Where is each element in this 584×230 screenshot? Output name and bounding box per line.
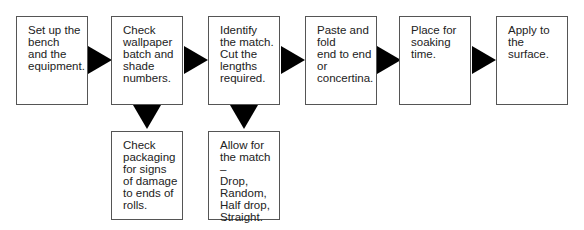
arrow-right-icon [88, 46, 112, 74]
step-identify-match: Identify the match. Cut the lengths requ… [208, 16, 280, 105]
step-paste-fold: Paste and fold end to end or concertina. [305, 16, 377, 105]
arrow-right-icon [472, 46, 496, 74]
substep-allow-match: Allow for the match – Drop, Random, Half… [208, 131, 280, 220]
arrow-down-icon [133, 105, 161, 129]
substep-check-packaging: Check packaging for signs of damage to e… [111, 131, 183, 220]
arrow-right-icon [281, 46, 305, 74]
step-apply-surface: Apply to the surface. [496, 16, 568, 105]
step-setup-bench: Set up the bench and the equipment. [16, 16, 88, 105]
step-soaking-time: Place for soaking time. [399, 16, 471, 105]
arrow-down-icon [230, 105, 258, 129]
arrow-right-icon [184, 46, 208, 74]
step-check-wallpaper: Check wallpaper batch and shade numbers. [111, 16, 183, 105]
arrow-right-icon [377, 46, 401, 74]
